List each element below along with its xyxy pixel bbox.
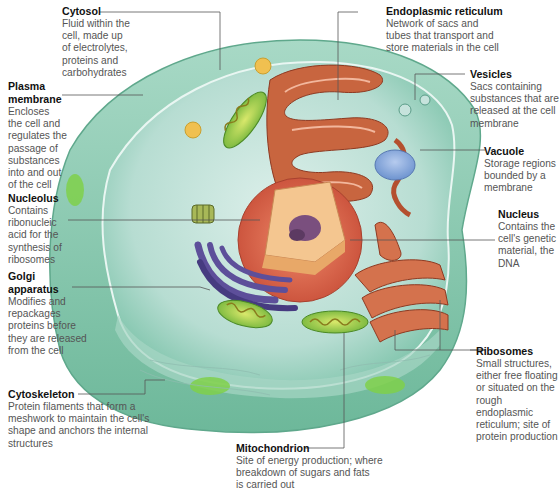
label-mitochondrion: Mitochondrion Site of energy production;… <box>236 442 383 491</box>
label-vesicles: Vesicles Sacs containing substances that… <box>470 68 559 130</box>
label-vacuole: Vacuole Storage regions bounded by a mem… <box>484 145 556 195</box>
label-plasma-membrane: Plasma membrane Encloses the cell and re… <box>8 80 67 191</box>
vesicle <box>399 104 411 116</box>
label-endoplasmic-reticulum: Endoplasmic reticulum Network of sacs an… <box>386 5 503 55</box>
label-nucleolus: Nucleolus Contains ribonucleic acid for … <box>8 192 62 266</box>
vacuole <box>375 150 415 180</box>
label-golgi-apparatus: Golgi apparatus Modifies and repackages … <box>8 270 87 357</box>
label-cytoskeleton: Cytoskeleton Protein filaments that form… <box>8 388 149 450</box>
label-nucleus: Nucleus Contains the cell's genetic mate… <box>498 208 556 270</box>
label-cytosol: Cytosol Fluid within the cell, made up o… <box>62 5 130 79</box>
label-title: Cytosol <box>62 5 130 18</box>
label-ribosomes: Ribosomes Small structures, either free … <box>476 345 560 443</box>
